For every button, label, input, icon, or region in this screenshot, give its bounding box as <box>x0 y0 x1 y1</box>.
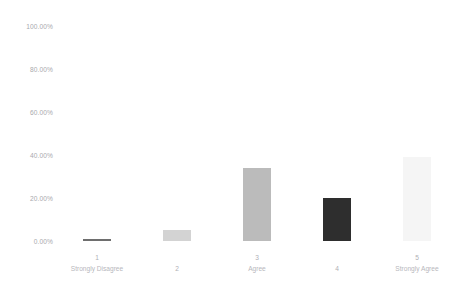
x-axis-tick-number: 2 <box>137 264 217 274</box>
x-axis-label-group: 1Strongly Disagree <box>57 253 137 274</box>
y-axis-tick-label: 60.00% <box>7 109 53 116</box>
x-axis-tick-number: 5 <box>377 253 457 263</box>
bar[interactable] <box>83 239 111 241</box>
plot-area: 1Strongly Disagree23Agree45Strongly Agre… <box>57 26 457 241</box>
x-axis-tick-number: 3 <box>217 253 297 263</box>
bar[interactable] <box>243 168 271 241</box>
x-axis-tick-name: Strongly Agree <box>377 263 457 274</box>
x-axis-label-group: 2 <box>137 264 217 274</box>
y-axis-tick-label: 0.00% <box>7 238 53 245</box>
x-axis-tick-name: Strongly Disagree <box>57 263 137 274</box>
bar[interactable] <box>163 230 191 241</box>
x-axis-tick-number: 4 <box>297 264 377 274</box>
bar-chart: 100.00%80.00%60.00%40.00%20.00%0.00% 1St… <box>0 0 463 296</box>
x-axis-label-group: 4 <box>297 264 377 274</box>
y-axis-tick-label: 80.00% <box>7 66 53 73</box>
x-axis-label-group: 3Agree <box>217 253 297 274</box>
x-axis-tick-number: 1 <box>57 253 137 263</box>
y-axis: 100.00%80.00%60.00%40.00%20.00%0.00% <box>3 26 53 241</box>
x-axis-label-group: 5Strongly Agree <box>377 253 457 274</box>
bar[interactable] <box>403 157 431 241</box>
x-axis-tick-name: Agree <box>217 263 297 274</box>
y-axis-tick-label: 100.00% <box>7 23 53 30</box>
chart-title <box>0 0 463 5</box>
bar[interactable] <box>323 198 351 241</box>
y-axis-tick-label: 40.00% <box>7 152 53 159</box>
y-axis-tick-label: 20.00% <box>7 195 53 202</box>
